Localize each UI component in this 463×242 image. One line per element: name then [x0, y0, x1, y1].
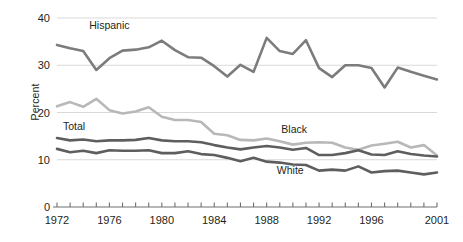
x-tick-label: 1980: [150, 214, 174, 226]
gridlines: [57, 18, 437, 160]
x-tick-label: 1984: [202, 214, 226, 226]
series-line-hispanic: [57, 38, 437, 88]
series-line-black: [57, 99, 437, 156]
x-tick-label: 1972: [45, 214, 69, 226]
x-tick-label: 2001: [425, 214, 449, 226]
series-label-total: Total: [63, 120, 85, 132]
series-label-black: Black: [281, 123, 307, 135]
y-tick-label: 30: [38, 59, 50, 71]
x-tick-label: 1988: [254, 214, 278, 226]
y-tick-label: 0: [44, 201, 50, 213]
y-tick-labels: 010203040: [38, 12, 50, 213]
series-label-hispanic: Hispanic: [89, 19, 129, 31]
y-tick-label: 10: [38, 154, 50, 166]
series-line-white: [57, 149, 437, 175]
chart-canvas: 010203040 197219761980198419881992199620…: [0, 0, 463, 242]
x-tick-label: 1992: [307, 214, 331, 226]
series-lines: [57, 38, 437, 175]
x-tick-label: 1996: [359, 214, 383, 226]
x-tick-marks: [57, 203, 437, 208]
x-tick-label: 1976: [97, 214, 121, 226]
y-tick-label: 20: [38, 107, 50, 119]
x-tick-labels: 19721976198019841988199219962001: [45, 214, 449, 226]
series-label-white: White: [277, 164, 304, 176]
dropout-rate-line-chart: Percent 010203040 1972197619801984198819…: [0, 0, 463, 242]
y-tick-label: 40: [38, 12, 50, 24]
